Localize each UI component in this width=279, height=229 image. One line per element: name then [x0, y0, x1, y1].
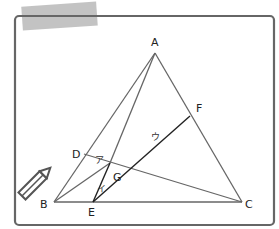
label-B: B: [40, 198, 48, 211]
marker-i: イ: [97, 184, 106, 194]
segment-AG: [110, 53, 155, 163]
pencil-icon: [18, 164, 53, 199]
label-C: C: [245, 198, 253, 211]
label-D: D: [72, 148, 80, 161]
label-G: G: [113, 171, 122, 184]
label-E: E: [88, 206, 95, 219]
diagram-canvas: ア イ ウ A B C D E F G: [0, 0, 279, 229]
frame-border: [15, 16, 274, 225]
segment-AB: [54, 53, 155, 202]
marker-u: ウ: [151, 132, 160, 142]
marker-a: ア: [95, 155, 104, 165]
segment-EF: [93, 116, 190, 202]
label-A: A: [151, 36, 159, 49]
label-F: F: [196, 102, 202, 115]
